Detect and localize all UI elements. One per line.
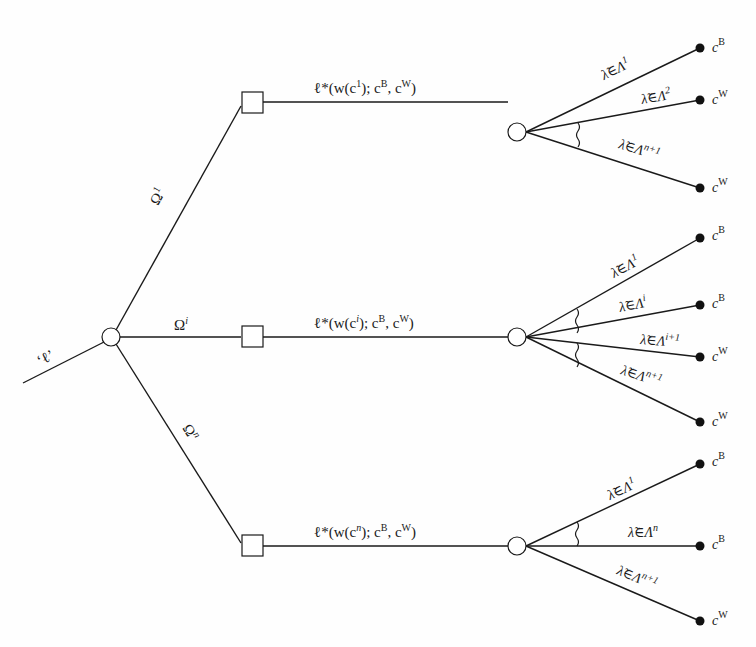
leaf-node (696, 542, 705, 551)
svg-text:Ω1: Ω1 (145, 185, 169, 208)
leaf-label: cW (712, 176, 728, 195)
svg-text:λ̃∈Λi: λ̃∈Λi (616, 292, 648, 315)
decision-node-i[interactable] (242, 326, 263, 347)
leaf-node (696, 234, 705, 243)
tree-svg: ‘ℓ’ Ω1 Ωi Ωn ℓ*(w(c1); cB, cW) ℓ*(w(ci);… (0, 0, 756, 647)
svg-text:λ̃∈Λn+1: λ̃∈Λn+1 (616, 133, 662, 163)
outcome-label-1-1: λ̃∈Λ1 (597, 53, 633, 83)
leaf-label: cB (712, 533, 725, 552)
ellipsis-brace-i-upper (576, 309, 579, 333)
outcome-label-i-3: λ̃∈Λi+1 (639, 329, 681, 350)
leaf-node (696, 418, 705, 427)
svg-text:λ̃∈Λi+1: λ̃∈Λi+1 (639, 329, 681, 350)
leaf-label: cW (712, 88, 728, 107)
leaf-node (696, 301, 705, 310)
leaf-node (696, 460, 705, 469)
leaf-node (696, 184, 705, 193)
entry-label: ‘ℓ’ (34, 347, 57, 369)
chance-node-1[interactable] (508, 123, 526, 141)
outcome-label-i-2: λ̃∈Λi (616, 292, 648, 315)
svg-text:λ̃∈Λn: λ̃∈Λn (627, 522, 658, 540)
leaf-label: cB (712, 450, 725, 469)
leaf-label: cW (712, 410, 728, 429)
decision-node-1[interactable] (242, 92, 263, 113)
ellipsis-brace-1 (577, 123, 580, 147)
leaf-label: cB (712, 224, 725, 243)
root-chance-node[interactable] (102, 328, 120, 346)
ellipsis-brace-i-lower (576, 343, 579, 367)
decision-label-i: ℓ*(w(ci); cB, cW) (314, 313, 414, 332)
outcome-edge-1-3 (526, 132, 700, 188)
outcome-edge-1-1 (526, 48, 700, 132)
leaf-node (696, 617, 705, 626)
chance-node-n[interactable] (508, 537, 526, 555)
ellipsis-brace-n (576, 522, 579, 546)
svg-text:λ̃∈Λ1: λ̃∈Λ1 (603, 474, 639, 503)
omega-n-label: Ωn (179, 420, 203, 443)
svg-text:λ̃∈Λ1: λ̃∈Λ1 (606, 251, 642, 281)
omega-1-label: Ω1 (145, 185, 169, 208)
svg-text:Ωi: Ωi (174, 315, 188, 333)
leaf-node (696, 96, 705, 105)
leaf-label: cB (712, 36, 725, 55)
decision-node-n[interactable] (242, 535, 263, 556)
outcome-label-i-1: λ̃∈Λ1 (606, 251, 642, 281)
omega-i-label: Ωi (174, 315, 188, 333)
svg-text:λ̃∈Λ1: λ̃∈Λ1 (597, 53, 633, 83)
outcome-edge-i-1 (526, 238, 700, 337)
leaf-node (696, 353, 705, 362)
chance-node-i[interactable] (508, 328, 526, 346)
decision-tree-diagram: ‘ℓ’ Ω1 Ωi Ωn ℓ*(w(c1); cB, cW) ℓ*(w(ci);… (0, 0, 756, 647)
edge-omega-n (116, 344, 241, 543)
leaf-label: cW (712, 609, 728, 628)
decision-label-n: ℓ*(w(cn); cB, cW) (314, 522, 416, 541)
outcome-edge-i-4 (526, 337, 700, 422)
leaf-label: cW (712, 345, 728, 364)
entry-edge (23, 342, 104, 383)
outcome-edge-n-3 (526, 546, 700, 621)
outcome-edge-n-1 (526, 464, 700, 546)
outcome-edge-1-2 (526, 100, 700, 132)
outcome-label-n-1: λ̃∈Λ1 (603, 474, 639, 503)
svg-text:Ωn: Ωn (179, 420, 203, 443)
outcome-label-1-3: λ̃∈Λn+1 (616, 133, 662, 163)
outcome-label-n-2: λ̃∈Λn (627, 522, 658, 540)
outcome-label-1-2: λ̃∈Λ2 (638, 84, 672, 107)
decision-label-1: ℓ*(w(c1); cB, cW) (314, 78, 416, 97)
svg-text:λ̃∈Λ2: λ̃∈Λ2 (638, 84, 672, 107)
edge-omega-1 (116, 106, 241, 330)
leaf-node (696, 44, 705, 53)
leaf-label: cB (712, 292, 725, 311)
